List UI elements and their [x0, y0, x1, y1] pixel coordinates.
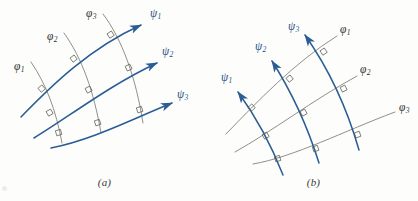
right-angle-marker-group-a	[38, 31, 143, 136]
label-psi-3: ψ3	[177, 89, 188, 102]
phi-curve-group-b	[226, 36, 395, 164]
label-phi-3: φ3	[86, 8, 96, 21]
right-angle-marker	[46, 109, 53, 116]
right-angle-marker	[320, 48, 327, 55]
figure-root: φ1 φ2 φ3 ψ1 ψ2 ψ3 (a)	[0, 0, 418, 201]
right-angle-marker	[94, 119, 101, 126]
label-phi-1: φ1	[14, 61, 24, 74]
right-angle-marker	[55, 129, 61, 135]
label-psi-2: ψ2	[255, 41, 266, 54]
label-phi-3: φ3	[399, 102, 409, 115]
panel-b-caption: (b)	[209, 176, 418, 188]
phi-curve-3	[103, 14, 143, 123]
phi-curve-2	[64, 33, 101, 133]
psi-curve-2	[272, 61, 319, 163]
label-psi-1: ψ1	[221, 72, 232, 85]
scan-artifact	[2, 186, 7, 191]
label-phi-2: φ2	[47, 31, 57, 44]
right-angle-marker	[107, 31, 114, 38]
panel-b: ψ1 ψ2 ψ3 φ1 φ2 φ3 (b)	[209, 0, 418, 201]
psi-curve-group-b	[238, 35, 359, 175]
label-phi-1: φ1	[340, 24, 350, 37]
right-angle-marker	[354, 131, 361, 138]
panel-a-caption: (a)	[0, 176, 209, 188]
label-phi-2: φ2	[360, 64, 370, 77]
psi-curve-1	[21, 25, 141, 117]
right-angle-marker	[70, 55, 77, 62]
right-angle-marker	[136, 106, 143, 113]
panel-b-diagram	[209, 0, 418, 201]
psi-curve-3	[51, 103, 172, 148]
right-angle-marker	[286, 75, 293, 82]
label-psi-1: ψ1	[150, 8, 161, 21]
panel-a: φ1 φ2 φ3 ψ1 ψ2 ψ3 (a)	[0, 0, 209, 201]
right-angle-marker	[340, 85, 347, 92]
label-psi-3: ψ3	[288, 21, 299, 34]
label-psi-2: ψ2	[162, 46, 173, 59]
